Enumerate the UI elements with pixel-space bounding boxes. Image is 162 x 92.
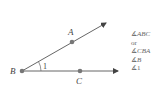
label-c: C [76,76,83,86]
angle-names-list: ∡ABC or ∡CBA ∡B ∡1 [131,30,150,73]
angle-name-or: or [131,39,150,48]
point-b [20,69,25,74]
angle-arc [39,62,42,71]
ray-ba [22,23,106,71]
label-a: A [67,27,74,37]
label-b: B [10,66,16,76]
point-a [70,40,75,45]
angle-label: 1 [43,62,47,71]
angle-name-abc: ∡ABC [131,30,150,39]
angle-name-b: ∡B [131,56,150,65]
angle-name-cba: ∡CBA [131,47,150,56]
point-c [78,69,83,74]
angle-name-1: ∡1 [131,64,150,73]
